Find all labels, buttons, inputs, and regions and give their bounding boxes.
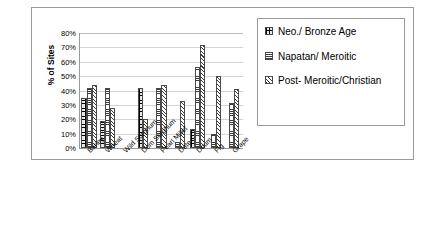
y-axis-tick-labels: 80%70%60%50%40%30%20%10%0% bbox=[54, 27, 76, 149]
chart-legend: Neo./ Bronze AgeNapatan/ MeroiticPost- M… bbox=[257, 18, 405, 126]
bar bbox=[216, 76, 221, 148]
bar-group bbox=[225, 33, 243, 148]
legend-item: Napatan/ Meroitic bbox=[265, 51, 404, 63]
bar bbox=[200, 45, 205, 149]
legend-label: Neo./ Bronze Age bbox=[278, 26, 356, 38]
bar-group bbox=[116, 33, 134, 148]
legend-label: Post- Meroitic/Christian bbox=[278, 75, 381, 87]
y-tick-label: 0% bbox=[65, 144, 76, 153]
y-tick-label: 70% bbox=[61, 43, 76, 52]
y-tick-label: 60% bbox=[61, 57, 76, 66]
bar-group bbox=[98, 33, 116, 148]
chart-container: % of Sites 80%70%60%50%40%30%20%10%0% Ba… bbox=[31, 7, 414, 160]
bar bbox=[234, 89, 239, 148]
bar bbox=[161, 85, 166, 148]
y-tick-label: 30% bbox=[61, 100, 76, 109]
y-tick-label: 20% bbox=[61, 115, 76, 124]
legend-item: Neo./ Bronze Age bbox=[265, 26, 404, 38]
bar-group bbox=[189, 33, 207, 148]
legend-item: Post- Meroitic/Christian bbox=[265, 75, 404, 87]
legend-label: Napatan/ Meroitic bbox=[278, 51, 356, 63]
y-tick-label: 80% bbox=[61, 29, 76, 38]
y-tick-label: 40% bbox=[61, 86, 76, 95]
plot-region: % of Sites 80%70%60%50%40%30%20%10%0% Ba… bbox=[32, 8, 248, 161]
y-tick-label: 50% bbox=[61, 72, 76, 81]
bar-group bbox=[207, 33, 225, 148]
legend-swatch-icon bbox=[265, 52, 273, 60]
legend-swatch-icon bbox=[265, 76, 273, 84]
legend-swatch-icon bbox=[265, 27, 273, 35]
y-tick-label: 10% bbox=[61, 129, 76, 138]
bar-group bbox=[80, 33, 98, 148]
